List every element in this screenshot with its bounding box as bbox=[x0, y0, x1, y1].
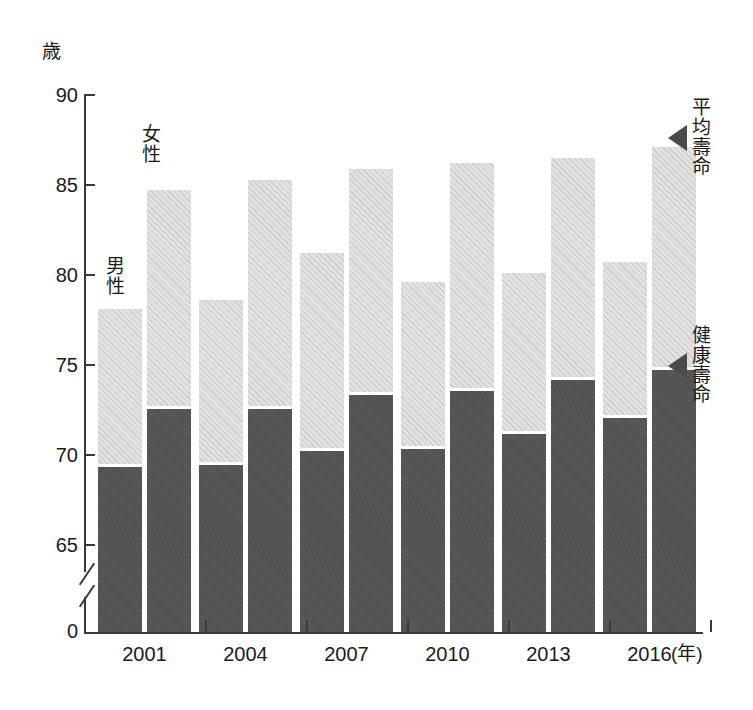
y-axis-tick bbox=[84, 184, 95, 186]
x-axis-tick bbox=[306, 620, 308, 632]
y-axis-tick-label: 90 bbox=[34, 85, 78, 105]
series-label-female: 女 性 bbox=[129, 125, 173, 165]
x-axis-tick-label-2001: 2001 bbox=[86, 644, 203, 664]
x-axis-tick bbox=[710, 620, 712, 632]
x-axis-tick-label-2007: 2007 bbox=[288, 644, 405, 664]
annotation-healthy-label: 健 康 壽 命 bbox=[692, 326, 711, 405]
x-axis-line bbox=[84, 632, 703, 634]
x-axis-tick-label-2013: 2013 bbox=[490, 644, 607, 664]
y-axis-tick-label: 85 bbox=[34, 175, 78, 195]
bar-segment-divider bbox=[551, 377, 595, 380]
bar-segment-divider bbox=[401, 446, 445, 449]
bar-segment-average-female-2007 bbox=[349, 169, 393, 394]
bar-segment-healthy-male-2016 bbox=[603, 417, 647, 632]
y-axis-origin-label: 0 bbox=[34, 621, 78, 641]
x-axis-tick-label-2010: 2010 bbox=[389, 644, 506, 664]
x-axis-tick-label-2004: 2004 bbox=[187, 644, 304, 664]
series-label-male: 男 性 bbox=[93, 257, 137, 297]
bar-segment-healthy-female-2004 bbox=[248, 408, 292, 632]
bar-segment-divider bbox=[349, 392, 393, 395]
y-axis-tick-label: 65 bbox=[34, 535, 78, 555]
y-axis-tick bbox=[84, 454, 95, 456]
bar-segment-divider bbox=[450, 388, 494, 391]
bar-segment-healthy-male-2010 bbox=[401, 448, 445, 632]
bar-segment-healthy-female-2007 bbox=[349, 394, 393, 632]
bar-segment-average-male-2004 bbox=[199, 300, 243, 464]
bar-segment-healthy-female-2013 bbox=[551, 379, 595, 632]
bar-segment-healthy-female-2010 bbox=[450, 390, 494, 632]
annotation-healthy-life-expectancy: 健 康 壽 命 bbox=[668, 326, 711, 405]
bar-segment-average-female-2013 bbox=[551, 158, 595, 379]
y-axis-tick-label: 70 bbox=[34, 445, 78, 465]
bar-segment-healthy-male-2001 bbox=[98, 466, 142, 632]
y-axis-tick-label: 80 bbox=[34, 265, 78, 285]
y-axis-tick bbox=[84, 544, 95, 546]
y-axis-tick bbox=[84, 94, 95, 96]
x-axis-tick bbox=[609, 620, 611, 632]
bar-segment-divider bbox=[300, 448, 344, 451]
bar-segment-healthy-male-2004 bbox=[199, 464, 243, 632]
y-axis-tick bbox=[84, 364, 95, 366]
bar-segment-divider bbox=[603, 415, 647, 418]
bar-segment-divider bbox=[248, 406, 292, 409]
left-triangle-icon bbox=[668, 353, 687, 379]
bar-segment-average-female-2010 bbox=[450, 163, 494, 390]
bar-segment-divider bbox=[147, 406, 191, 409]
life-expectancy-bar-chart: 歳 6570758085900 200120042007201020132016… bbox=[0, 0, 753, 710]
x-axis-tick bbox=[205, 620, 207, 632]
bar-segment-average-male-2010 bbox=[401, 282, 445, 448]
x-axis-tick bbox=[407, 620, 409, 632]
bar-segment-average-female-2004 bbox=[248, 180, 292, 409]
annotation-average-label: 平 均 壽 命 bbox=[692, 98, 711, 177]
bar-segment-average-male-2001 bbox=[98, 309, 142, 466]
y-axis-tick-labels: 6570758085900 bbox=[28, 0, 78, 710]
bar-segment-average-female-2001 bbox=[147, 190, 191, 408]
annotation-average-life-expectancy: 平 均 壽 命 bbox=[668, 98, 711, 177]
bar-segment-healthy-female-2016 bbox=[652, 369, 696, 632]
bar-segment-divider bbox=[98, 464, 142, 467]
bar-segment-divider bbox=[199, 462, 243, 465]
y-axis-tick-label: 75 bbox=[34, 355, 78, 375]
bar-segment-average-male-2016 bbox=[603, 262, 647, 417]
bar-segment-healthy-female-2001 bbox=[147, 408, 191, 632]
bar-segment-average-male-2007 bbox=[300, 253, 344, 449]
bar-segment-divider bbox=[502, 431, 546, 434]
x-axis-unit-label: (年) bbox=[671, 644, 703, 663]
bar-segment-healthy-male-2013 bbox=[502, 433, 546, 632]
left-triangle-icon bbox=[668, 125, 687, 151]
x-axis-tick bbox=[508, 620, 510, 632]
bar-segment-average-male-2013 bbox=[502, 273, 546, 433]
bar-segment-healthy-male-2007 bbox=[300, 450, 344, 632]
